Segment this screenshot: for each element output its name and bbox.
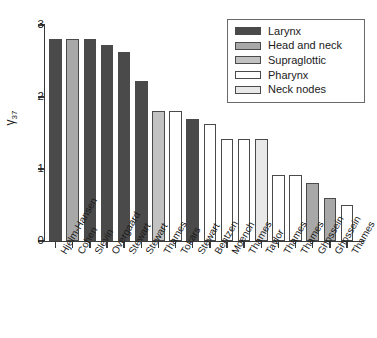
bar [101,45,114,241]
y-tick-label: 3 [22,19,44,31]
legend-label: Neck nodes [268,84,326,95]
legend-swatch [235,71,261,79]
bar [66,39,79,241]
y-tick-label: 2 [22,91,44,103]
legend-item: Pharynx [235,68,358,83]
bar [118,52,131,241]
bar [186,119,199,241]
bar [49,39,62,241]
legend-item: Neck nodes [235,82,358,97]
legend-swatch [235,56,261,64]
x-tick-mark [55,242,56,248]
y-axis-title-symbol: γ [3,119,17,125]
legend-swatch [235,27,261,35]
legend-item: Larynx [235,24,358,39]
legend-item: Head and neck [235,39,358,54]
legend-swatch [235,86,261,94]
y-tick-label: 0 [22,235,44,247]
legend-swatch [235,42,261,50]
legend-label: Pharynx [268,70,308,81]
legend-label: Head and neck [268,40,342,51]
y-axis-title: γ37 [4,111,19,126]
legend: LarynxHead and neckSupraglotticPharynxNe… [227,19,365,103]
legend-label: Supraglottic [268,55,326,66]
legend-item: Supraglottic [235,53,358,68]
y-axis-title-subscript: 37 [10,111,19,120]
legend-label: Larynx [268,26,301,37]
y-tick-label: 1 [22,163,44,175]
